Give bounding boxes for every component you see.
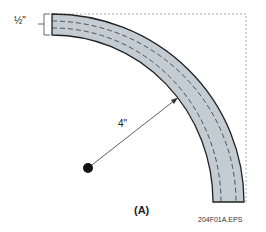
thickness-bracket: [38, 14, 50, 35]
file-label: 204F01A.EPS: [198, 216, 242, 223]
radius-line: [88, 100, 175, 168]
thickness-label: ½": [14, 15, 26, 26]
conduit-bend: [52, 14, 244, 202]
figure-caption: (A): [134, 204, 149, 216]
radius-label: 4": [118, 118, 127, 129]
bend-diagram: [0, 0, 266, 232]
arrowhead-icon: [171, 98, 178, 105]
center-point: [83, 163, 93, 173]
